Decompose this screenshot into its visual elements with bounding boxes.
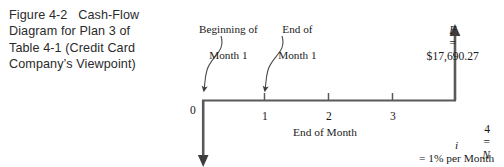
label-beginning-line-1: Beginning of xyxy=(199,23,258,35)
tick-label-3: 3 xyxy=(380,110,406,123)
label-beginning-of-month-1: Beginning of Month 1 xyxy=(180,10,260,75)
future-value-label: F = $17,690.27 xyxy=(388,11,500,76)
axis-label-end-of-month: End of Month xyxy=(270,126,380,139)
tick-label-2: 2 xyxy=(316,110,342,123)
label-end-line-1: End of xyxy=(282,23,312,35)
future-value-equals: = xyxy=(449,37,456,50)
tick-label-0: 0 xyxy=(180,104,206,117)
cash-outflow-arrowhead xyxy=(198,155,209,167)
interest-symbol: i xyxy=(455,139,458,151)
label-end-line-2: Month 1 xyxy=(278,49,316,61)
tick-label-1: 1 xyxy=(252,110,278,123)
cash-flow-diagram: Beginning of Month 1 End of Month 1 F = … xyxy=(0,0,504,167)
future-value-amount: $17,690.27 xyxy=(427,50,479,63)
figure-container: Figure 4-2 Cash-Flow Diagram for Plan 3 … xyxy=(0,0,504,167)
label-end-of-month-1: End of Month 1 xyxy=(258,10,320,75)
label-interest-rate: i = 1% per Month xyxy=(392,126,504,167)
future-value-symbol: F xyxy=(449,24,456,37)
interest-rate-text: = 1% per Month xyxy=(419,152,494,164)
label-beginning-line-2: Month 1 xyxy=(209,49,247,61)
